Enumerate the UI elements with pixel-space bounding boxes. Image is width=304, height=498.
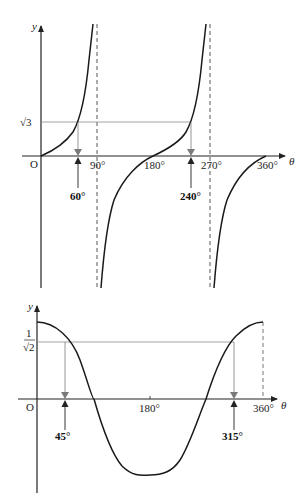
tan-y-label: y — [31, 20, 37, 32]
cos-solution-45: 45° — [55, 430, 70, 442]
cos-graph: y O θ 180° 360° 1 √2 45° 315° — [18, 300, 287, 493]
tan-solution-60: 60° — [70, 190, 85, 202]
tan-x-label: θ — [289, 155, 295, 167]
tan-tick-360: 360° — [257, 159, 278, 171]
tan-tick-180: 180° — [144, 159, 165, 171]
tan-240-up-arrow-icon — [188, 157, 195, 164]
tan-tick-90: 90° — [90, 159, 105, 171]
tan-solution-240: 240° — [180, 190, 201, 202]
tan-graph: y O θ 90° 180° 270° 360° √3 60° 240° — [20, 20, 295, 290]
tan-tick-270: 270° — [201, 159, 222, 171]
cos-tick-180: 180° — [139, 402, 160, 414]
cos-315-up-arrow-icon — [231, 400, 238, 407]
tan-branch-3 — [214, 156, 266, 288]
cos-y-label: y — [27, 300, 33, 312]
cos-x-label: θ — [281, 399, 287, 411]
cos-marker-numerator: 1 — [26, 327, 32, 339]
tan-sqrt3-label: √3 — [20, 116, 32, 128]
cos-45-up-arrow-icon — [62, 400, 69, 407]
cos-marker-denominator: √2 — [23, 341, 35, 353]
cos-solution-315: 315° — [222, 430, 243, 442]
cos-315-down-arrow-icon — [230, 392, 238, 399]
tan-60-down-arrow-icon — [74, 149, 82, 156]
tan-branch-1 — [41, 24, 93, 156]
tan-60-up-arrow-icon — [75, 157, 82, 164]
tan-240-down-arrow-icon — [187, 149, 195, 156]
cos-45-down-arrow-icon — [61, 392, 69, 399]
cos-origin-label: O — [26, 401, 34, 413]
tan-origin-label: O — [30, 158, 38, 170]
cos-tick-360: 360° — [253, 402, 274, 414]
trig-diagrams: y O θ 90° 180° 270° 360° √3 60° 240° — [0, 0, 304, 498]
